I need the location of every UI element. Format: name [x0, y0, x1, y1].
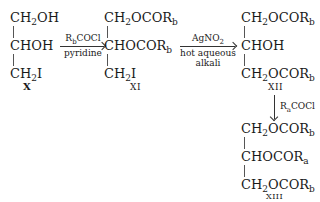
xii-line1: CH2OCORb: [241, 10, 315, 25]
x-line2: CHOH: [10, 38, 53, 53]
reaction-arrow: [180, 46, 235, 47]
compound-label: X: [23, 81, 31, 92]
xi-line3: CH2I: [104, 66, 136, 81]
x-line3: CH2I: [10, 66, 42, 81]
xiii-line2: CHOCORa: [241, 149, 309, 164]
bond: [13, 54, 14, 66]
reagent-below: pyridine: [58, 48, 108, 58]
xi-line2: CHOCORb: [104, 38, 172, 53]
compound-label: XI: [130, 82, 141, 92]
xiii-line1: CH2OCORb: [241, 121, 315, 136]
bond: [244, 54, 245, 66]
compound-label: XIII: [266, 192, 283, 201]
x-line1: CH2OH: [10, 10, 59, 25]
bond: [107, 54, 108, 66]
compound-label: XII: [268, 82, 283, 92]
xii-line2: CHOH: [241, 38, 284, 53]
xii-line3: CH2OCORb: [241, 66, 315, 81]
reaction-arrow: [274, 95, 275, 119]
reagent-label: RaCOCl: [280, 101, 315, 114]
reaction-arrow: [60, 46, 104, 47]
xiii-line3: CH2OCORb: [241, 177, 315, 192]
bond: [107, 26, 108, 38]
reagent-below: hot aqueousalkali: [176, 48, 240, 68]
xi-line1: CH2OCORb: [104, 10, 178, 25]
bond: [244, 137, 245, 149]
bond: [13, 26, 14, 38]
bond: [244, 26, 245, 38]
bond: [244, 165, 245, 177]
